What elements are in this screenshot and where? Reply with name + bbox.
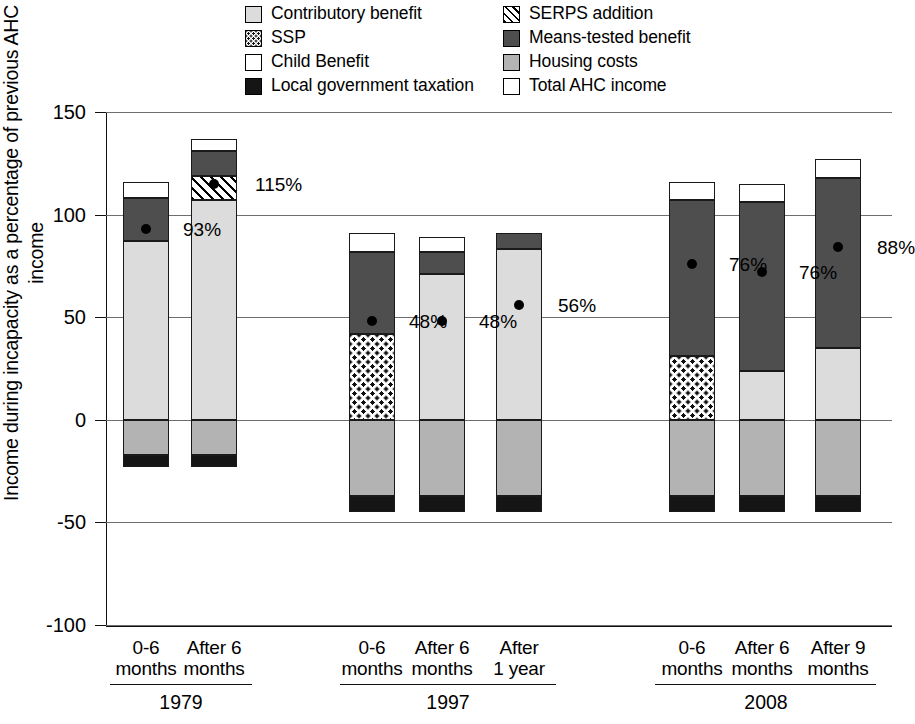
plot-area <box>106 112 892 625</box>
bar-segment-contrib <box>496 249 542 419</box>
bar-segment-housing <box>123 420 169 455</box>
legend-item-total: Total AHC income <box>503 74 690 98</box>
total-ahc-income-label: 88% <box>877 238 915 257</box>
x-axis-baseline <box>106 626 892 627</box>
x-axis-category-label: After 6 months <box>152 637 276 679</box>
bar-segment-tax <box>739 496 785 512</box>
x-axis-group-label-2008: 2008 <box>706 693 826 713</box>
legend-item-serps: SERPS addition <box>503 2 690 26</box>
legend-label-serps: SERPS addition <box>529 5 653 23</box>
legend-label-tax: Local government taxation <box>271 77 474 95</box>
legend-label-contrib: Contributory benefit <box>271 5 422 23</box>
bar-7 <box>739 112 785 625</box>
legend-item-tax: Local government taxation <box>245 74 474 98</box>
x-axis-category-label: After 9 months <box>776 637 900 679</box>
bar-segment-ssp <box>349 334 395 420</box>
total-ahc-income-dot <box>209 179 219 189</box>
y-tick-label--100: -100 <box>22 615 86 635</box>
bar-segment-child <box>191 139 237 151</box>
bar-segment-tax <box>669 496 715 512</box>
x-axis-group-rule-1979 <box>110 684 252 685</box>
bar-segment-means <box>123 198 169 241</box>
y-tick-mark-150 <box>95 112 106 113</box>
bar-5 <box>496 112 542 625</box>
bar-segment-housing <box>191 420 237 455</box>
bar-2 <box>191 112 237 625</box>
bar-segment-contrib <box>739 371 785 420</box>
total-ahc-income-label: 48% <box>409 312 447 331</box>
total-ahc-income-dot <box>514 300 524 310</box>
legend-label-total: Total AHC income <box>529 77 667 95</box>
total-ahc-income-label: 48% <box>479 312 517 331</box>
bar-segment-ssp <box>669 356 715 420</box>
bar-segment-housing <box>669 420 715 496</box>
bar-segment-tax <box>191 455 237 467</box>
bar-segment-child <box>739 184 785 202</box>
legend-item-means: Means-tested benefit <box>503 26 690 50</box>
bar-segment-means <box>496 233 542 249</box>
bar-3 <box>349 112 395 625</box>
bar-segment-tax <box>496 496 542 512</box>
bar-segment-housing <box>419 420 465 496</box>
legend-item-contrib: Contributory benefit <box>245 2 474 26</box>
x-axis-group-label-1979: 1979 <box>121 693 241 713</box>
bar-segment-child <box>349 233 395 251</box>
bar-segment-means <box>419 252 465 275</box>
legend-label-housing: Housing costs <box>529 53 638 71</box>
x-axis-category-label: After 1 year <box>457 637 581 679</box>
bar-segment-housing <box>815 420 861 496</box>
bar-segment-contrib <box>123 241 169 420</box>
bar-segment-means <box>669 200 715 356</box>
total-ahc-income-dot <box>687 259 697 269</box>
bar-segment-housing <box>739 420 785 496</box>
total-ahc-income-label: 115% <box>255 175 302 194</box>
bar-1 <box>123 112 169 625</box>
legend-column-right: SERPS additionMeans-tested benefitHousin… <box>503 2 690 98</box>
total-ahc-income-label: 76% <box>799 263 837 282</box>
bar-segment-contrib <box>815 348 861 420</box>
y-tick-mark-50 <box>95 317 106 318</box>
local-government-taxation-swatch <box>245 78 262 95</box>
legend-label-means: Means-tested benefit <box>529 29 690 47</box>
bar-segment-tax <box>419 496 465 512</box>
x-axis-group-rule-2008 <box>655 684 876 685</box>
bar-4 <box>419 112 465 625</box>
y-tick-mark-0 <box>95 420 106 421</box>
bar-segment-means <box>739 202 785 370</box>
serps-addition-swatch <box>503 6 520 23</box>
y-tick-label--50: -50 <box>22 512 86 532</box>
housing-costs-swatch <box>503 54 520 71</box>
total-ahc-income-dot <box>141 224 151 234</box>
child-benefit-swatch <box>245 54 262 71</box>
total-ahc-income-label: 56% <box>558 296 596 315</box>
means-tested-benefit-swatch <box>503 30 520 47</box>
bar-6 <box>669 112 715 625</box>
bar-segment-tax <box>123 455 169 467</box>
legend-label-child: Child Benefit <box>271 53 369 71</box>
y-axis-title: Income during incapacity as a percentage… <box>0 0 49 513</box>
contributory-benefit-swatch <box>245 6 262 23</box>
bar-segment-means <box>191 151 237 176</box>
bar-segment-housing <box>349 420 395 496</box>
legend-item-child: Child Benefit <box>245 50 474 74</box>
legend-column-left: Contributory benefitSSPChild BenefitLoca… <box>245 2 474 98</box>
bar-segment-child <box>815 159 861 177</box>
ssp-swatch <box>245 30 262 47</box>
total-ahc-income-label: 76% <box>729 255 767 274</box>
x-axis-group-rule-1997 <box>340 684 556 685</box>
bar-segment-child <box>669 182 715 200</box>
x-axis-group-label-1997: 1997 <box>388 693 508 713</box>
y-tick-mark-100 <box>95 215 106 216</box>
legend-label-ssp: SSP <box>271 29 306 47</box>
bar-8 <box>815 112 861 625</box>
bar-segment-tax <box>815 496 861 512</box>
total-ahc-income-label: 93% <box>183 220 221 239</box>
bar-segment-child <box>419 237 465 251</box>
legend-item-ssp: SSP <box>245 26 474 50</box>
y-tick-mark--50 <box>95 522 106 523</box>
legend-item-housing: Housing costs <box>503 50 690 74</box>
chart-legend: Contributory benefitSSPChild BenefitLoca… <box>245 2 790 98</box>
bar-segment-contrib <box>419 274 465 420</box>
bar-segment-child <box>123 182 169 198</box>
